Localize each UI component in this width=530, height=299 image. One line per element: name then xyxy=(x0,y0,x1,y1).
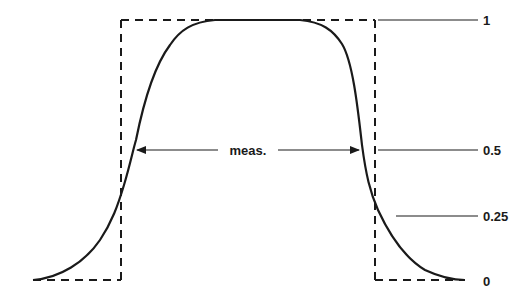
level-label-0: 0 xyxy=(483,274,490,289)
level-label-1: 1 xyxy=(483,13,490,28)
pulse-width-diagram: 1 0.5 0.25 0 meas. xyxy=(0,0,530,299)
level-label-0.25: 0.25 xyxy=(483,209,508,224)
level-label-0.5: 0.5 xyxy=(483,143,501,158)
level-reference-lines xyxy=(378,20,478,216)
measurement-label: meas. xyxy=(230,143,267,158)
